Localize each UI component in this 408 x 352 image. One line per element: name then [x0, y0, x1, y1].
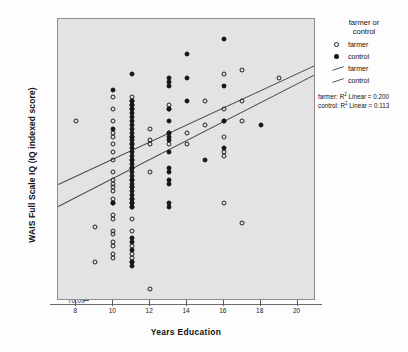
data-point-control [221, 118, 226, 123]
data-point-control [129, 205, 134, 210]
data-point-farmer [129, 216, 134, 221]
legend-item-farmer-open-circle[interactable]: farmer [322, 40, 406, 49]
legend-item-control-line[interactable]: control [322, 76, 406, 85]
line-icon [332, 64, 344, 73]
fit-line-control [58, 74, 315, 207]
control-r2-suffix: Linear = 0.113 [348, 102, 390, 109]
data-point-farmer [92, 259, 97, 264]
data-point-control [185, 52, 190, 57]
data-point-farmer [111, 189, 116, 194]
x-axis-title: Years Education [57, 327, 315, 337]
data-point-control [111, 201, 116, 206]
data-point-farmer [203, 122, 208, 127]
data-point-farmer [111, 118, 116, 123]
data-point-control [166, 169, 171, 174]
x-tick-mark [112, 300, 113, 306]
legend-title-line2: control [322, 27, 406, 36]
data-point-control [221, 83, 226, 88]
legend-item-label: farmer [348, 65, 368, 72]
x-tick-label: 14 [182, 307, 189, 314]
x-tick-mark [186, 300, 187, 306]
data-point-control [258, 122, 263, 127]
y-axis-title: WAIS Full Scale IQ (IQ indexed score) [27, 45, 37, 285]
data-point-control [166, 83, 171, 88]
data-point-farmer [111, 244, 116, 249]
data-point-farmer [221, 154, 226, 159]
data-point-control [129, 263, 134, 268]
data-point-farmer [92, 224, 97, 229]
data-point-control [129, 240, 134, 245]
x-tick-mark [149, 300, 150, 306]
data-point-farmer [111, 232, 116, 237]
farmer-r2-annotation: farmer: R2 Linear = 0.200 [318, 92, 408, 101]
control-r2-prefix: control: R [318, 102, 345, 109]
data-point-farmer [148, 126, 153, 131]
data-point-control [166, 150, 171, 155]
fit-line-farmer [58, 64, 315, 184]
legend-item-label: farmer [348, 41, 368, 48]
legend-title: farmer or control [322, 18, 406, 37]
data-point-farmer [111, 95, 116, 100]
data-point-control [185, 99, 190, 104]
legend-entries: farmercontrolfarmercontrol [322, 40, 406, 85]
legend-item-label: control [348, 77, 369, 84]
data-point-control [185, 75, 190, 80]
x-tick-label: 20 [293, 307, 300, 314]
plot-frame [57, 18, 315, 300]
data-point-farmer [111, 150, 116, 155]
data-point-control [166, 107, 171, 112]
filled-circle-icon [332, 52, 344, 61]
data-point-farmer [111, 134, 116, 139]
open-circle-icon [332, 40, 344, 49]
x-tick-label: 18 [256, 307, 263, 314]
data-point-farmer [148, 287, 153, 292]
data-point-farmer [111, 216, 116, 221]
x-tick-mark [223, 300, 224, 306]
data-point-farmer [74, 118, 79, 123]
data-point-farmer [111, 158, 116, 163]
data-point-farmer [240, 67, 245, 72]
data-point-farmer [129, 228, 134, 233]
x-tick-mark [260, 300, 261, 306]
data-point-farmer [111, 142, 116, 147]
legend-item-farmer-line[interactable]: farmer [322, 64, 406, 73]
data-point-farmer [203, 99, 208, 104]
data-point-control [166, 138, 171, 143]
data-point-farmer [148, 169, 153, 174]
plot-area [58, 19, 314, 299]
legend-item-control-filled-circle[interactable]: control [322, 52, 406, 61]
data-point-control [166, 118, 171, 123]
x-tick-mark [75, 300, 76, 306]
r-squared-annotations: farmer: R2 Linear = 0.200 control: R2 Li… [318, 92, 408, 110]
data-point-farmer [221, 134, 226, 139]
data-point-farmer [111, 107, 116, 112]
data-point-farmer [185, 142, 190, 147]
farmer-r2-suffix: Linear = 0.200 [347, 93, 389, 100]
data-point-farmer [221, 201, 226, 206]
data-point-farmer [240, 118, 245, 123]
data-point-farmer [277, 75, 282, 80]
data-point-farmer [221, 71, 226, 76]
data-point-farmer [148, 142, 153, 147]
x-tick-mark [297, 300, 298, 306]
farmer-r2-prefix: farmer: R [318, 93, 344, 100]
data-point-control [129, 248, 134, 253]
data-point-farmer [221, 107, 226, 112]
line-icon [332, 76, 344, 85]
x-tick-label: 10 [109, 307, 116, 314]
data-point-control [221, 146, 226, 151]
data-point-farmer [111, 255, 116, 260]
data-point-control [111, 87, 116, 92]
x-tick-label: 16 [219, 307, 226, 314]
data-point-farmer [240, 220, 245, 225]
data-point-control [129, 71, 134, 76]
chart-root: WAIS Full Scale IQ (IQ indexed score) 70… [0, 0, 408, 352]
data-point-farmer [111, 169, 116, 174]
legend: farmer or control farmercontrolfarmercon… [322, 18, 406, 85]
data-point-control [166, 181, 171, 186]
data-point-control [221, 36, 226, 41]
control-r2-annotation: control: R2 Linear = 0.113 [318, 101, 408, 110]
x-tick-label: 12 [146, 307, 153, 314]
data-point-control [111, 126, 116, 131]
data-point-farmer [185, 130, 190, 135]
